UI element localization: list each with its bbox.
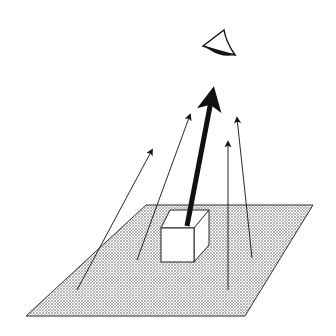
vision-diagram	[0, 0, 336, 336]
eye-icon	[203, 30, 235, 56]
